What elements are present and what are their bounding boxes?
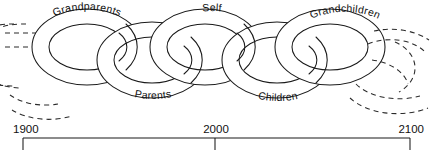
timeline-label-2000: 2000	[203, 123, 229, 135]
timeline-label-1900: 1900	[13, 123, 39, 135]
link-label-self: Self	[202, 1, 222, 14]
generations-chain-figure: Grandparents Self Grandchildren Parents …	[0, 0, 430, 155]
chain-link-grandchildren	[275, 9, 385, 85]
chain-diagram-svg: Grandparents Self Grandchildren Parents …	[0, 0, 430, 155]
link-label-parents: Parents	[134, 87, 172, 101]
timeline-axis	[23, 138, 410, 150]
timeline-label-2100: 2100	[398, 123, 424, 135]
timeline-tick-labels: 1900 2000 2100	[13, 123, 424, 135]
